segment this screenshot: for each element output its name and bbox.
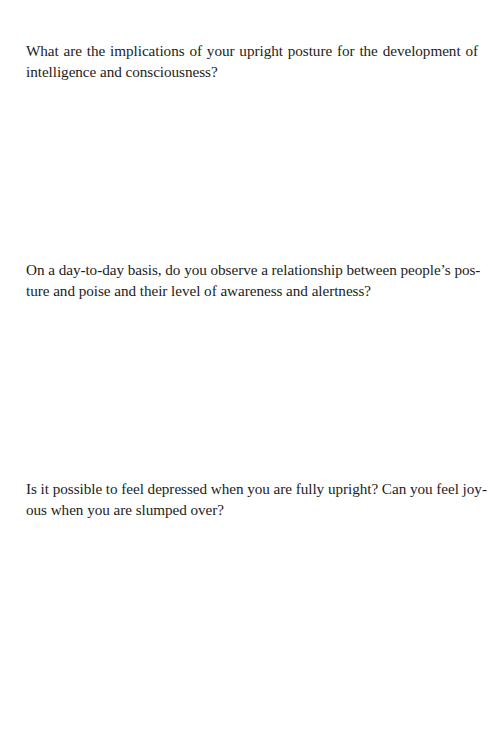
- question-upright-posture-intelligence: What are the implications of your uprigh…: [26, 40, 478, 82]
- question-line: ous when you are slumped over?: [26, 499, 478, 520]
- question-line: intelligence and consciousness?: [26, 61, 478, 82]
- question-line: On a day-to-day basis, do you observe a …: [26, 259, 478, 280]
- question-posture-mood: Is it possible to feel depressed when yo…: [26, 478, 478, 520]
- question-posture-awareness: On a day-to-day basis, do you observe a …: [26, 259, 478, 301]
- question-line: ture and poise and their level of awaren…: [26, 280, 478, 301]
- question-line: What are the implications of your uprigh…: [26, 40, 478, 61]
- document-page: What are the implications of your uprigh…: [0, 0, 504, 736]
- question-line: Is it possible to feel depressed when yo…: [26, 478, 478, 499]
